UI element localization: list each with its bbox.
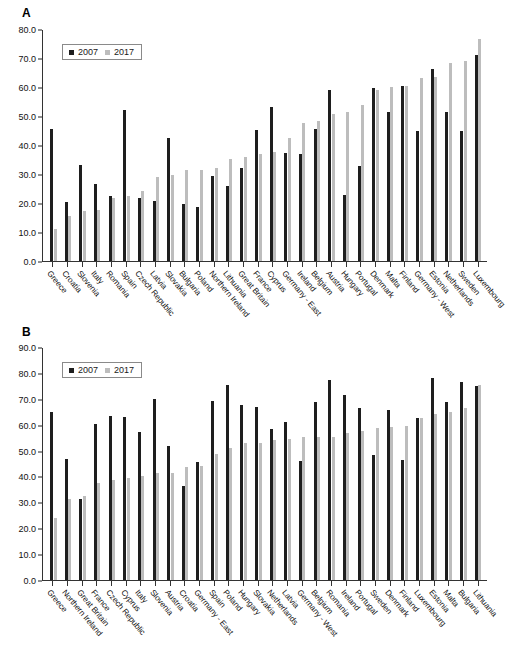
y-tick-label: 0.0 (23, 257, 36, 267)
x-tick (441, 262, 456, 267)
bar-2017 (346, 112, 349, 261)
bar-group (192, 348, 207, 580)
y-tick-label: 50.0 (18, 112, 36, 122)
bar-2017 (156, 177, 159, 261)
bar-group (134, 348, 149, 580)
bar-2017 (112, 198, 115, 261)
bar-2017 (317, 121, 320, 261)
x-tick (206, 581, 221, 586)
bar-group (222, 30, 237, 261)
bar-2017 (259, 154, 262, 261)
y-tick-label: 80.0 (18, 25, 36, 35)
bar-group (46, 348, 61, 580)
x-tick (470, 262, 485, 267)
x-tick (133, 262, 148, 267)
bar-group (266, 348, 281, 580)
x-tick (456, 262, 471, 267)
bar-group (148, 348, 163, 580)
bar-2017 (302, 123, 305, 261)
y-tick-label: 0.0 (23, 576, 36, 586)
x-tick (426, 581, 441, 586)
bar-group (339, 30, 354, 261)
legend-panel-b: 2007 2017 (62, 362, 142, 378)
bar-2017 (200, 170, 203, 261)
x-tick (309, 262, 324, 267)
x-tick (382, 581, 397, 586)
legend-item-2007: 2007 (69, 365, 98, 375)
x-tick (74, 262, 89, 267)
bar-group (412, 30, 427, 261)
bar-group (295, 30, 310, 261)
x-tick (236, 581, 251, 586)
bar-2017 (185, 467, 188, 580)
legend-item-2017: 2017 (105, 47, 134, 57)
bar-2017 (405, 86, 408, 261)
bar-group (192, 30, 207, 261)
x-tick (133, 581, 148, 586)
bar-group (471, 348, 486, 580)
bar-group (412, 348, 427, 580)
bar-group (456, 348, 471, 580)
bar-group (119, 348, 134, 580)
bar-group (163, 30, 178, 261)
x-tick (338, 581, 353, 586)
x-tick (470, 581, 485, 586)
plot-area-panel-b (42, 348, 487, 581)
x-tick (397, 262, 412, 267)
bar-2017 (464, 408, 467, 580)
bar-2017 (376, 428, 379, 580)
plot-area-panel-a (42, 30, 487, 262)
y-axis-panel-b: 0.010.020.030.040.050.060.070.080.090.0 (0, 348, 42, 581)
bar-2017 (54, 229, 57, 261)
x-tick (148, 581, 163, 586)
x-tick (324, 581, 339, 586)
bar-group (119, 30, 134, 261)
bar-2017 (361, 105, 364, 261)
bar-2017 (112, 480, 115, 580)
y-tick-label: 70.0 (18, 54, 36, 64)
legend-label-2007: 2007 (78, 365, 98, 375)
y-tick-label: 20.0 (18, 199, 36, 209)
bar-2017 (83, 496, 86, 580)
bar-2017 (390, 87, 393, 261)
bar-2017 (478, 385, 481, 580)
x-tick (60, 581, 75, 586)
x-tick (104, 262, 119, 267)
bar-2017 (244, 157, 247, 261)
bar-group (105, 30, 120, 261)
bar-2017 (273, 440, 276, 580)
bar-2017 (200, 466, 203, 580)
bar-group (353, 348, 368, 580)
bar-2017 (244, 443, 247, 580)
bar-2017 (390, 427, 393, 580)
x-tick (368, 581, 383, 586)
bar-group (427, 30, 442, 261)
bar-group (46, 30, 61, 261)
x-tick (177, 262, 192, 267)
bar-2017 (420, 418, 423, 580)
x-tick (162, 581, 177, 586)
y-tick-label: 10.0 (18, 550, 36, 560)
legend-label-2017: 2017 (114, 365, 134, 375)
legend-item-2017: 2017 (105, 365, 134, 375)
bar-2017 (54, 518, 57, 580)
x-tick (104, 581, 119, 586)
bar-group (397, 348, 412, 580)
y-tick-label: 60.0 (18, 83, 36, 93)
bar-group (90, 30, 105, 261)
bar-2017 (449, 63, 452, 261)
y-axis-panel-a: 0.010.020.030.040.050.060.070.080.0 (0, 30, 42, 262)
bar-group (280, 348, 295, 580)
bar-group (61, 30, 76, 261)
bar-group (310, 30, 325, 261)
x-tick (74, 581, 89, 586)
bar-series-panel-b (43, 348, 487, 580)
bar-group (383, 348, 398, 580)
bar-group (251, 348, 266, 580)
x-tick (118, 581, 133, 586)
bar-group (148, 30, 163, 261)
legend-swatch-2007-icon (69, 50, 74, 55)
x-tick (441, 581, 456, 586)
bar-group (266, 30, 281, 261)
x-tick (60, 262, 75, 267)
